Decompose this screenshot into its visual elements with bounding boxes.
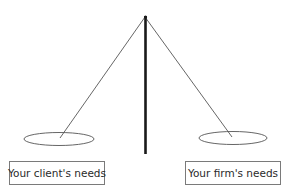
client-needs-text: Your client's needs: [8, 167, 106, 179]
right-pan: [199, 132, 267, 145]
right-string: [145, 17, 232, 137]
left-pan: [24, 133, 94, 146]
left-string: [60, 17, 145, 138]
pivot-point: [144, 15, 147, 18]
firm-needs-label: Your firm's needs: [185, 161, 281, 185]
client-needs-label: Your client's needs: [9, 161, 105, 185]
firm-needs-text: Your firm's needs: [188, 167, 278, 179]
